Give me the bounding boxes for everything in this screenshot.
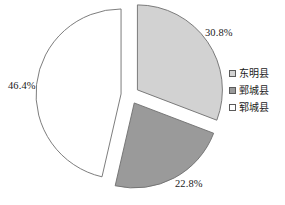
- legend-label-1: 鄄城县: [239, 85, 269, 96]
- legend-item-2[interactable]: 郓城县: [229, 100, 269, 114]
- chart-legend: 东明县 鄄城县 郓城县: [229, 66, 269, 114]
- pie-slice-group: [36, 5, 222, 188]
- pie-slice-0[interactable]: [137, 5, 222, 120]
- legend-item-0[interactable]: 东明县: [229, 66, 269, 80]
- legend-label-0: 东明县: [239, 68, 269, 79]
- legend-swatch-icon-1: [229, 87, 236, 94]
- slice-label-1: 22.8%: [175, 178, 203, 189]
- pie-chart: 30.8% 22.8% 46.4% 东明县 鄄城县 郓城县: [0, 0, 285, 205]
- legend-swatch-icon-2: [229, 104, 236, 111]
- pie-slice-2[interactable]: [36, 9, 121, 177]
- legend-label-2: 郓城县: [239, 102, 269, 113]
- slice-label-2: 46.4%: [8, 80, 36, 91]
- slice-label-0: 30.8%: [205, 27, 233, 38]
- legend-swatch-icon-0: [229, 70, 236, 77]
- pie-slice-1[interactable]: [115, 103, 213, 188]
- legend-item-1[interactable]: 鄄城县: [229, 83, 269, 97]
